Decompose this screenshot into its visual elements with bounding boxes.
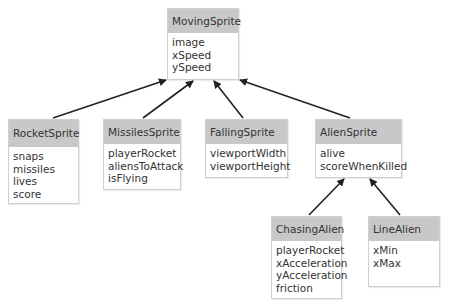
field: isFlying — [108, 172, 180, 185]
arrow-falling-to-moving — [214, 81, 243, 118]
class-chasing-alien: ChasingAlien playerRocket xAcceleration … — [271, 216, 342, 299]
field: alive — [320, 147, 401, 160]
arrow-chasing-to-alien — [309, 179, 344, 215]
field: xMax — [373, 257, 439, 270]
field: aliensToAttack — [108, 160, 180, 173]
class-falling-sprite: FallingSprite viewportWidth viewportHeig… — [205, 119, 288, 178]
class-name: LineAlien — [369, 217, 439, 241]
class-name: ChasingAlien — [272, 217, 341, 241]
field: xSpeed — [172, 49, 238, 62]
field: missiles — [13, 163, 78, 176]
class-line-alien: LineAlien xMin xMax — [368, 216, 440, 287]
class-missiles-sprite: MissilesSprite playerRocket aliensToAtta… — [103, 119, 181, 190]
field: xAcceleration — [276, 257, 341, 270]
field: ySpeed — [172, 61, 238, 74]
field: snaps — [13, 150, 78, 163]
field: friction — [276, 282, 341, 295]
field: image — [172, 36, 238, 49]
field: viewportHeight — [210, 160, 287, 173]
arrow-rocket-to-moving — [53, 80, 166, 118]
class-name: FallingSprite — [206, 120, 287, 144]
field: score — [13, 188, 78, 201]
field: playerRocket — [276, 244, 341, 257]
field: viewportWidth — [210, 147, 287, 160]
class-alien-sprite: AlienSprite alive scoreWhenKilled — [315, 119, 402, 178]
class-name: MissilesSprite — [104, 120, 180, 144]
class-rocket-sprite: RocketSprite snaps missiles lives score — [8, 119, 79, 204]
class-name: MovingSprite — [168, 9, 238, 33]
class-name: RocketSprite — [9, 120, 78, 147]
arrow-missiles-to-moving — [143, 81, 193, 118]
field: yAcceleration — [276, 269, 341, 282]
field: xMin — [373, 244, 439, 257]
field: playerRocket — [108, 147, 180, 160]
class-moving-sprite: MovingSprite image xSpeed ySpeed — [167, 8, 239, 80]
class-name: AlienSprite — [316, 120, 401, 144]
arrow-line-to-alien — [370, 179, 400, 215]
arrow-alien-to-moving — [240, 80, 350, 118]
field: lives — [13, 175, 78, 188]
field: scoreWhenKilled — [320, 160, 401, 173]
